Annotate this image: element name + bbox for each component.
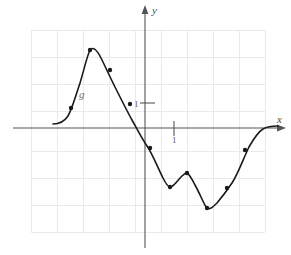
curve-data-point (185, 171, 189, 175)
x-unit-tick-label: 1 (172, 135, 177, 145)
grid-lines (31, 30, 265, 232)
y-axis-arrowhead (142, 5, 149, 14)
curve-data-point (168, 185, 172, 189)
axes (13, 10, 280, 248)
curve-data-point (148, 146, 152, 150)
y-axis-label: y (152, 4, 157, 16)
curve-label-g: g (79, 88, 85, 100)
marked-points-group (69, 48, 247, 210)
curve-data-point (108, 68, 112, 72)
function-graph-figure: y x g 1 1 (0, 0, 291, 255)
curve-data-point (205, 206, 209, 210)
curve-data-point (225, 186, 229, 190)
x-axis-label: x (277, 113, 282, 125)
y-unit-tick-label: 1 (134, 99, 139, 109)
plot-canvas (0, 0, 291, 255)
curve-data-point (69, 106, 73, 110)
curve-data-point (128, 102, 132, 106)
curve-data-point (88, 48, 92, 52)
curve-data-point (243, 148, 247, 152)
